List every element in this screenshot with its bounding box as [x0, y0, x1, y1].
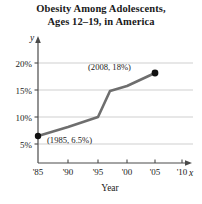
x-tick-label-1990: '90: [63, 167, 74, 177]
x-tick-label-2005: '05: [150, 167, 161, 177]
x-tick-label-2010: '10: [177, 167, 188, 177]
y-tick-label-5: 5%: [20, 140, 33, 150]
annotation-1985: (1985, 6.5%): [47, 135, 92, 145]
x-tick-label-1995: '95: [93, 167, 104, 177]
y-axis-name: y: [29, 33, 35, 43]
gridlines: [38, 63, 193, 144]
x-tick-label-1985: '85: [33, 167, 44, 177]
annotation-2008: (2008, 18%): [88, 62, 131, 72]
x-axis-arrow-icon: [185, 160, 192, 166]
y-tick-label-10: 10%: [16, 113, 33, 123]
data-point-1985: [35, 133, 41, 139]
x-axis-title: Year: [101, 183, 119, 193]
y-tick-label-20: 20%: [16, 59, 33, 69]
data-point-2008: [152, 70, 159, 77]
x-axis-name: x: [188, 168, 194, 178]
x-tick-label-2000: '00: [122, 167, 133, 177]
x-axis: [38, 160, 192, 166]
obesity-line-chart: Obesity Among Adolescents, Ages 12–19, i…: [0, 0, 202, 204]
y-axis-arrow-icon: [35, 36, 41, 43]
y-tick-label-15: 15%: [16, 86, 33, 96]
chart-canvas: 20% 15% 10% 5% '85 '90 '95 '00 '05 '10 y…: [0, 0, 202, 204]
data-line-obesity-rate: [38, 73, 155, 136]
